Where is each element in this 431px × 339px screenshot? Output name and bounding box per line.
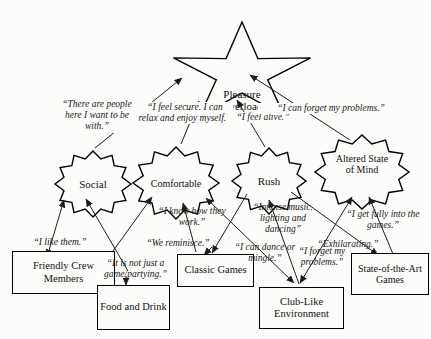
attribute-box-state-of-the-art-games: State-of-the-Art Games xyxy=(351,253,429,295)
consequence-rush-label: Rush xyxy=(239,175,299,187)
quote-intense-music: “Intense music. lighting and dancing” xyxy=(241,202,325,236)
consequence-comfortable-label: Comfortable xyxy=(140,178,212,189)
quote-we-reminisce: “We reminisce.” xyxy=(138,238,218,249)
quote-not-just-game: “It is not just a game/partying.” xyxy=(88,258,183,280)
connector-crew-social xyxy=(47,200,64,257)
quote-know-how-work: “I know how they work.” xyxy=(153,206,231,228)
quote-forget-problems-bottom: “I forget my problems.” xyxy=(289,246,355,268)
attribute-box-club-environment: Club-Like Environment xyxy=(259,287,344,329)
consequence-altered-label: Altered State of Mind xyxy=(333,153,391,175)
quote-forget-problems-top: “I can forget my problems.” xyxy=(258,103,404,114)
consequence-social-label: Social xyxy=(63,178,123,190)
quote-like-them: “I like them.” xyxy=(24,237,96,248)
quote-feel-secure: “I feel secure. I can relax and enjoy my… xyxy=(137,102,233,124)
quote-people-here: “There are people here I want to be with… xyxy=(54,99,140,133)
means-end-chain-diagram: Pleasure Overload Social Comfortable Rus… xyxy=(0,0,431,339)
quote-fully-into-games: “I get fully into the games.” xyxy=(341,209,425,231)
quote-dance-mingle: “I can dance or mingle.” xyxy=(233,242,297,264)
attribute-box-food-drink: Food and Drink xyxy=(97,285,170,330)
